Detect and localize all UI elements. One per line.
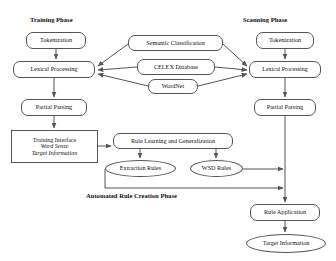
node-scan-partial-label: Partial Parsing <box>267 104 303 111</box>
node-rule-learning[interactable]: Rule Learning and Generalization <box>113 133 233 149</box>
node-wsd-rules[interactable]: WSD Rules <box>190 160 243 177</box>
node-semantic-classification[interactable]: Semantic Classification <box>128 35 223 51</box>
node-train-partial-label: Partial Parsing <box>36 104 72 111</box>
node-celex-database[interactable]: CELEX Database <box>137 59 215 75</box>
node-training-interface[interactable]: Training InterfaceWord SenseTarget Infor… <box>11 130 98 163</box>
node-extraction-rules-label: Extraction Rules <box>120 165 161 172</box>
node-train-tokenization-label: Tokenization <box>40 37 72 44</box>
node-scan-tokenization[interactable]: Tokenization <box>256 32 314 49</box>
node-wordnet[interactable]: WordNet <box>148 79 198 94</box>
node-training-interface-line-2: Target Information <box>32 150 77 156</box>
node-scan-lexical[interactable]: Lexical Processing <box>249 61 321 78</box>
node-train-tokenization[interactable]: Tokenization <box>26 32 86 49</box>
node-target-information[interactable]: Target Information <box>246 234 326 253</box>
node-rule-application-label: Rule Application <box>264 209 306 216</box>
node-scan-partial[interactable]: Partial Parsing <box>254 99 316 116</box>
node-extraction-rules[interactable]: Extraction Rules <box>105 160 176 177</box>
node-training-interface-lines: Training InterfaceWord SenseTarget Infor… <box>32 137 77 156</box>
edge-e-sem-scanlex <box>223 44 247 66</box>
node-train-lexical-label: Lexical Processing <box>31 66 78 73</box>
node-scan-tokenization-label: Tokenization <box>269 37 301 44</box>
node-wordnet-label: WordNet <box>162 83 185 90</box>
edge-e-celex-scanlex <box>215 67 247 70</box>
node-scan-lexical-label: Lexical Processing <box>262 66 308 72</box>
node-celex-database-label: CELEX Database <box>154 64 198 71</box>
node-train-lexical[interactable]: Lexical Processing <box>13 61 95 78</box>
phase-label-training: Training Phase <box>30 16 73 23</box>
phase-label-scanning: Scanning Phase <box>243 16 287 23</box>
node-rule-application[interactable]: Rule Application <box>250 204 320 221</box>
edge-e-celex-trainlex <box>98 67 137 70</box>
edge-e-wordnet-scanlex <box>198 74 247 86</box>
node-target-information-label: Target Information <box>263 240 310 247</box>
node-rule-learning-label: Rule Learning and Generalization <box>131 138 215 145</box>
edge-e-wordnet-trainlex <box>98 74 148 86</box>
node-wsd-rules-label: WSD Rules <box>202 165 231 172</box>
node-semantic-classification-label: Semantic Classification <box>146 40 205 47</box>
phase-label-automated: Automated Rule Creation Phase <box>86 192 177 199</box>
diagram-canvas: TokenizationLexical ProcessingPartial Pa… <box>0 0 336 261</box>
node-train-partial[interactable]: Partial Parsing <box>21 99 87 116</box>
edge-e-sem-trainlex <box>98 44 128 66</box>
